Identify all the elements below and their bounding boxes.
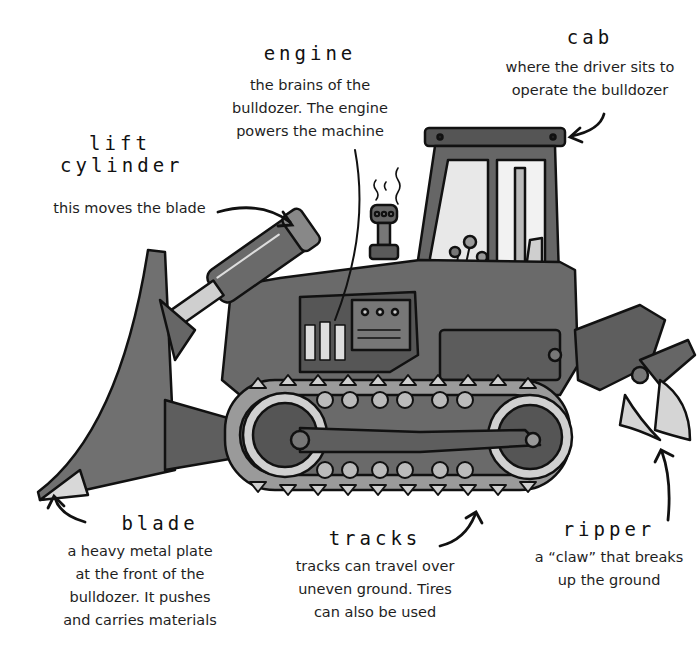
ripper-description: a “claw” that breaks up the ground bbox=[520, 546, 698, 592]
cab-description: where the driver sits to operate the bul… bbox=[485, 56, 695, 102]
cab-roof bbox=[425, 128, 565, 146]
blade-title: blade bbox=[40, 512, 240, 534]
tracks-label: tracks tracks can travel over uneven gro… bbox=[270, 527, 480, 624]
ripper bbox=[575, 305, 695, 440]
ripper-arrow bbox=[662, 452, 669, 520]
cab-label: cab where the driver sits to operate the… bbox=[485, 26, 695, 102]
ripper-title: ripper bbox=[520, 518, 698, 540]
ripper-label: ripper a “claw” that breaks up the groun… bbox=[520, 518, 698, 592]
lift-cylinder-label: lift cylinder bbox=[60, 132, 180, 176]
blade bbox=[38, 250, 175, 500]
engine-title: engine bbox=[230, 42, 390, 64]
lift-cylinder-arrow bbox=[218, 208, 290, 222]
cab-title: cab bbox=[485, 26, 695, 48]
tracks-description: tracks can travel over uneven ground. Ti… bbox=[270, 555, 480, 624]
engine-label: engine the brains of the bulldozer. The … bbox=[230, 42, 390, 143]
lift-cylinder-description: this moves the blade bbox=[42, 197, 217, 220]
lift-cylinder-title: lift cylinder bbox=[60, 132, 180, 176]
engine-description: the brains of the bulldozer. The engine … bbox=[230, 74, 390, 143]
blade-description: a heavy metal plate at the front of the … bbox=[40, 540, 240, 632]
tracks-title: tracks bbox=[270, 527, 480, 549]
blade-label: blade a heavy metal plate at the front o… bbox=[40, 512, 240, 632]
